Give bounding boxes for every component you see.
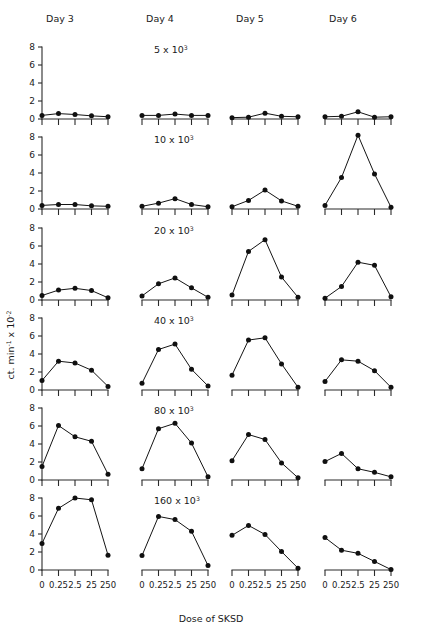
x-tick-label: 25 bbox=[186, 580, 197, 590]
panel-day-4-row-3 bbox=[140, 342, 211, 396]
row-title-text-1: 10 x 103 bbox=[154, 134, 194, 145]
panel-day-4-row-0 bbox=[140, 112, 211, 125]
y-tick-label: 6 bbox=[29, 421, 35, 431]
data-point bbox=[372, 368, 377, 373]
data-point bbox=[89, 203, 94, 208]
y-tick-label: 2 bbox=[29, 277, 35, 287]
data-point bbox=[106, 114, 111, 119]
data-point bbox=[206, 113, 211, 118]
data-point bbox=[56, 288, 61, 293]
x-tick-label: 0.25 bbox=[332, 580, 351, 590]
data-point bbox=[173, 342, 178, 347]
y-tick-label: 2 bbox=[29, 186, 35, 196]
data-point bbox=[140, 553, 145, 558]
x-tick-label: 0 bbox=[322, 580, 327, 590]
data-point bbox=[389, 294, 394, 299]
data-point bbox=[173, 275, 178, 280]
data-point bbox=[356, 109, 361, 114]
data-point bbox=[296, 204, 301, 209]
data-point bbox=[56, 111, 61, 116]
data-point bbox=[40, 541, 45, 546]
panel-day-5-row-4 bbox=[230, 432, 301, 486]
y-tick-label: 2 bbox=[29, 547, 35, 557]
series-line bbox=[232, 338, 298, 388]
data-point bbox=[73, 496, 78, 501]
data-point bbox=[173, 421, 178, 426]
row-title-text-0: 5 x 103 bbox=[154, 44, 188, 55]
data-point bbox=[246, 338, 251, 343]
data-point bbox=[339, 548, 344, 553]
series-line bbox=[142, 423, 208, 477]
x-tick-label: 250 bbox=[290, 580, 306, 590]
data-point bbox=[73, 286, 78, 291]
panel-day-5-row-2 bbox=[230, 237, 301, 306]
data-point bbox=[206, 295, 211, 300]
data-point bbox=[40, 203, 45, 208]
data-point bbox=[206, 563, 211, 568]
data-point bbox=[89, 288, 94, 293]
data-point bbox=[56, 423, 61, 428]
y-tick-label: 2 bbox=[29, 367, 35, 377]
data-point bbox=[339, 357, 344, 362]
data-point bbox=[40, 378, 45, 383]
y-tick-label: 4 bbox=[29, 78, 35, 88]
x-tick-label: 25 bbox=[86, 580, 97, 590]
x-tick-label: 0.25 bbox=[49, 580, 68, 590]
series-line bbox=[325, 135, 391, 207]
x-tick-label: 2.5 bbox=[168, 580, 182, 590]
data-point bbox=[73, 361, 78, 366]
panel-day-3-row-0: 02468 bbox=[29, 42, 110, 125]
data-point bbox=[323, 114, 328, 119]
data-point bbox=[56, 359, 61, 364]
y-tick-label: 0 bbox=[29, 295, 35, 305]
data-point bbox=[73, 434, 78, 439]
column-header-day-6: Day 6 bbox=[329, 13, 357, 24]
x-tick-label: 2.5 bbox=[258, 580, 272, 590]
data-point bbox=[296, 114, 301, 119]
panel-day-3-row-4: 02468 bbox=[29, 403, 110, 486]
panel-day-6-row-2 bbox=[323, 260, 394, 306]
x-tick-label: 250 bbox=[100, 580, 116, 590]
panel-day-3-row-2: 02468 bbox=[29, 223, 110, 306]
y-tick-label: 6 bbox=[29, 241, 35, 251]
dose-response-multi-panel-figure: Day 3Day 4Day 5Day 6ct. min-1 x 10-25 x … bbox=[0, 0, 421, 635]
data-point bbox=[73, 112, 78, 117]
y-tick-label: 4 bbox=[29, 259, 35, 269]
data-point bbox=[263, 237, 268, 242]
data-point bbox=[106, 472, 111, 477]
row-title-text-4: 80 x 103 bbox=[154, 405, 194, 416]
x-tick-label: 250 bbox=[200, 580, 216, 590]
data-point bbox=[279, 460, 284, 465]
row-title-3: 40 x 103 bbox=[154, 315, 194, 326]
series-line bbox=[142, 344, 208, 386]
panel-day-4-row-4 bbox=[140, 421, 211, 486]
data-point bbox=[156, 113, 161, 118]
x-tick-label: 0.25 bbox=[149, 580, 168, 590]
data-point bbox=[189, 202, 194, 207]
data-point bbox=[279, 275, 284, 280]
y-tick-label: 4 bbox=[29, 168, 35, 178]
panel-day-6-row-3 bbox=[323, 357, 394, 396]
data-point bbox=[279, 114, 284, 119]
data-point bbox=[339, 175, 344, 180]
y-tick-label: 8 bbox=[29, 493, 35, 503]
data-point bbox=[106, 295, 111, 300]
y-tick-label: 0 bbox=[29, 475, 35, 485]
data-point bbox=[372, 470, 377, 475]
data-point bbox=[140, 113, 145, 118]
data-point bbox=[296, 385, 301, 390]
row-title-text-3: 40 x 103 bbox=[154, 315, 194, 326]
data-point bbox=[189, 529, 194, 534]
data-point bbox=[246, 249, 251, 254]
series-line bbox=[142, 516, 208, 565]
y-tick-label: 6 bbox=[29, 331, 35, 341]
panel-day-5-row-5: 00.252.525250 bbox=[229, 523, 306, 590]
data-point bbox=[156, 281, 161, 286]
data-point bbox=[263, 111, 268, 116]
x-tick-label: 25 bbox=[276, 580, 287, 590]
data-point bbox=[279, 198, 284, 203]
data-point bbox=[389, 205, 394, 210]
x-tick-label: 25 bbox=[369, 580, 380, 590]
series-line bbox=[325, 360, 391, 387]
data-point bbox=[89, 439, 94, 444]
